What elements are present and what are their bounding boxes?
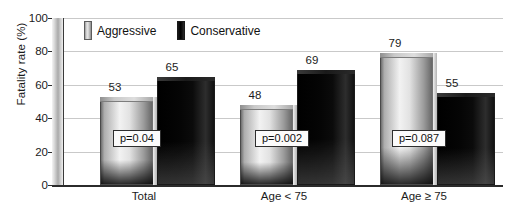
- y-tick-0: 0: [14, 180, 48, 190]
- y-tick-40: 40: [14, 113, 48, 123]
- fatality-rate-bar-chart: Fatality rate (%) 100 80 60 40 20 0: [0, 0, 514, 219]
- y-tick-60: 60: [14, 80, 48, 90]
- bar-old-aggressive: [380, 53, 437, 185]
- value-label-old-conservative: 55: [437, 77, 467, 89]
- value-label-young-conservative: 69: [297, 54, 327, 66]
- bar-face: [380, 53, 437, 185]
- value-label-young-aggressive: 48: [240, 89, 270, 101]
- legend-item-conservative: Conservative: [177, 21, 272, 40]
- bar-top-face: [100, 97, 157, 102]
- y-tick-20: 20: [14, 147, 48, 157]
- value-label-total-conservative: 65: [157, 61, 187, 73]
- bar-top-face: [437, 93, 495, 97]
- bar-top-face: [297, 70, 355, 74]
- pvalue-box-total: p=0.04: [113, 130, 161, 147]
- legend-label-aggressive: Aggressive: [97, 24, 156, 38]
- legend-swatch-aggressive-icon: [84, 21, 92, 40]
- x-axis-line: [52, 185, 503, 187]
- bar-total-conservative: [157, 77, 215, 186]
- category-label-total: Total: [100, 190, 188, 202]
- bar-face: [297, 70, 355, 185]
- y-tick-80: 80: [14, 46, 48, 56]
- pvalue-box-old: p=0.087: [392, 130, 446, 147]
- pvalue-box-young: p=0.002: [255, 130, 309, 147]
- category-label-age-under-75: Age < 75: [240, 190, 328, 202]
- bar-top-face: [240, 105, 297, 110]
- bar-face: [157, 77, 215, 186]
- legend-swatch-conservative-icon: [177, 21, 185, 40]
- axis-wall-3d: [52, 18, 63, 185]
- plot-area: [64, 18, 503, 185]
- bar-top-face: [157, 77, 215, 81]
- y-axis-tick-labels: 100 80 60 40 20 0: [12, 0, 48, 219]
- legend-label-conservative: Conservative: [190, 24, 260, 38]
- y-tick-100: 100: [14, 13, 48, 23]
- value-label-total-aggressive: 53: [100, 81, 130, 93]
- value-label-old-aggressive: 79: [380, 37, 410, 49]
- legend-item-aggressive: Aggressive: [84, 21, 168, 40]
- gridline-100: [64, 18, 503, 19]
- category-label-age-over-75: Age ≥ 75: [380, 190, 468, 202]
- bar-young-conservative: [297, 70, 355, 185]
- gridline-80: [64, 51, 503, 52]
- chart-legend: Aggressive Conservative: [84, 21, 272, 40]
- bar-top-face: [380, 53, 437, 58]
